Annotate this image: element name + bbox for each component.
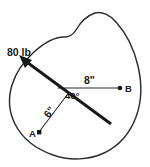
point-b-label: B [125, 83, 132, 94]
point-a-dot [37, 130, 41, 134]
force-diagram-figure: 80 lb 8" 6" 40° B A [0, 0, 150, 167]
diagram-canvas: 80 lb 8" 6" 40° B A [0, 0, 150, 167]
point-b-dot [118, 86, 123, 91]
distance-b-label: 8" [84, 74, 95, 86]
point-a-label: A [29, 128, 36, 139]
angle-label: 40° [65, 90, 80, 101]
distance-a-label: 6" [41, 104, 57, 120]
force-magnitude-label: 80 lb [7, 46, 31, 58]
